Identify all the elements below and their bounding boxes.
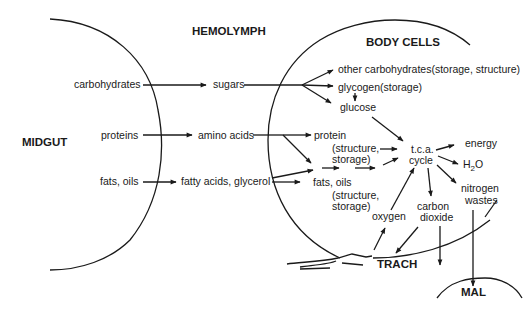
arrow-fatty-to-chain (272, 170, 313, 178)
arrow-trach-to-oxygen (374, 228, 385, 250)
midgut-fats-label: fats, oils (100, 175, 139, 187)
trach-tube (287, 254, 372, 269)
nitrogen-label-1: nitrogen (461, 182, 499, 194)
proteins-label: proteins (101, 129, 138, 141)
arrow-to-glycogen (302, 85, 333, 86)
hemolymph-label: HEMOLYMPH (192, 25, 266, 37)
water-label: H2O (463, 158, 483, 173)
fatty-acids-label: fatty acids, glycerol (181, 175, 270, 187)
sugars-label: sugars (213, 78, 245, 90)
arrow-to-glucose (302, 85, 331, 103)
arrow-chain-3 (383, 158, 398, 165)
mal-label: MAL (461, 286, 486, 298)
arrow-glucose-to-tca (372, 117, 403, 141)
other-carbs-label: other carbohydrates(storage, structure) (338, 63, 520, 75)
glucose-label: glucose (340, 101, 376, 113)
protein-label: protein (314, 129, 346, 141)
carbohydrates-label: carbohydrates (74, 78, 141, 90)
arrow-oxygen-to-tca (391, 168, 414, 210)
arrow-to-other-carbs (302, 70, 333, 85)
arrow-co2-to-trach (396, 227, 418, 253)
protein-sub2: storage) (332, 153, 371, 165)
energy-label: energy (465, 137, 498, 149)
arrow-tca-to-energy (436, 145, 454, 150)
arrow-tca-to-nitrogen (437, 165, 456, 183)
midgut-label: MIDGUT (22, 136, 67, 148)
cell-fats-label: fats, oils (313, 176, 352, 188)
tca-label-2: cycle (409, 154, 433, 166)
arrow-tca-to-co2 (428, 168, 431, 196)
body-cells-label: BODY CELLS (366, 36, 440, 48)
trach-label: TRACH (377, 258, 417, 270)
arrow-tca-to-water (438, 156, 458, 164)
arrow-amino-to-tca-path (283, 135, 311, 163)
fats-sub2: storage) (332, 200, 371, 212)
amino-acids-label: amino acids (198, 129, 254, 141)
co2-label-2: dioxide (420, 211, 453, 223)
glycogen-label: glycogen(storage) (338, 81, 422, 93)
nitrogen-label-2: wastes (464, 194, 498, 206)
metabolism-diagram: MIDGUT HEMOLYMPH BODY CELLS TRACH MAL ca… (0, 0, 532, 313)
oxygen-label: oxygen (372, 210, 406, 222)
